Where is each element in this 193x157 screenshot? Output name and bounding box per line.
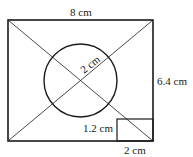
label-small-width: 2 cm	[124, 144, 146, 156]
label-small-height: 1.2 cm	[83, 122, 113, 134]
geometry-diagram: 8 cm 6.4 cm 2 cm 1.2 cm 2 cm	[0, 0, 193, 157]
label-top-width: 8 cm	[70, 6, 92, 18]
corner-rectangle	[117, 119, 153, 141]
label-right-height: 6.4 cm	[157, 75, 187, 87]
